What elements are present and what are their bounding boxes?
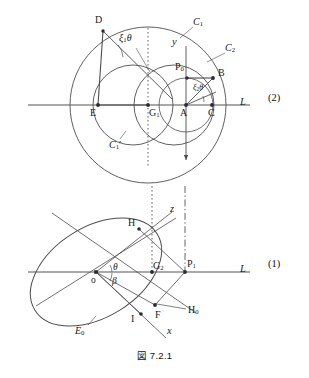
- segment-P1-F: [155, 272, 185, 305]
- label-C2: C2: [225, 43, 235, 54]
- label-C1-prime: C1′: [109, 140, 121, 151]
- label-axis-L-top: L: [240, 97, 246, 108]
- point-F: [153, 303, 157, 307]
- leader-C1-prime: [120, 131, 126, 139]
- label-axis-x: x: [167, 326, 172, 337]
- label-point-H0: H0: [188, 305, 199, 316]
- leader-H0: [157, 304, 186, 309]
- label-point-B: B: [218, 68, 225, 78]
- label-axis-L-bottom: L: [240, 264, 246, 275]
- point-H: [137, 227, 141, 231]
- segment-D-E: [98, 31, 103, 105]
- label-angle-theta: θ: [113, 263, 118, 273]
- label-point-C: C: [208, 108, 215, 118]
- point-B: [211, 76, 215, 80]
- section-number-2: (2): [268, 92, 280, 103]
- leader-E0: [88, 316, 96, 325]
- segment-A-C-ray: [186, 92, 216, 105]
- section-number-1: (1): [268, 258, 280, 269]
- panel-top-diagram: [28, 27, 250, 183]
- label-point-P1: P1: [187, 259, 196, 270]
- label-angle-xi1-theta: ξ1θ: [119, 33, 132, 44]
- label-point-I: I: [131, 314, 134, 324]
- leader-C1: [180, 27, 193, 38]
- label-angle-xi2-theta: ξ2θ: [193, 84, 203, 93]
- figure-canvas: [0, 0, 309, 378]
- point-I: [139, 312, 143, 316]
- label-point-P0: P0: [175, 62, 184, 73]
- label-point-E: E: [90, 108, 96, 118]
- angle-arc-theta: [110, 265, 112, 272]
- label-point-o: o: [91, 276, 96, 286]
- label-C1: C1: [193, 17, 203, 28]
- point-P1: [183, 270, 187, 274]
- point-D: [101, 29, 104, 32]
- label-point-F: F: [155, 310, 161, 320]
- point-P0: [185, 76, 188, 79]
- label-axis-z: z: [170, 204, 174, 215]
- label-point-D: D: [95, 15, 102, 25]
- label-point-H: H: [128, 218, 135, 228]
- label-angle-beta: β: [112, 277, 117, 287]
- label-axis-y: y: [172, 37, 177, 48]
- label-point-A: A: [180, 108, 187, 118]
- figure-caption: 図 7.2.1: [0, 348, 309, 362]
- point-o: [94, 270, 98, 274]
- label-point-G1: G1: [149, 108, 160, 119]
- point-E: [96, 103, 100, 107]
- label-E0: E0: [75, 326, 85, 337]
- label-point-G2: G2: [153, 261, 164, 272]
